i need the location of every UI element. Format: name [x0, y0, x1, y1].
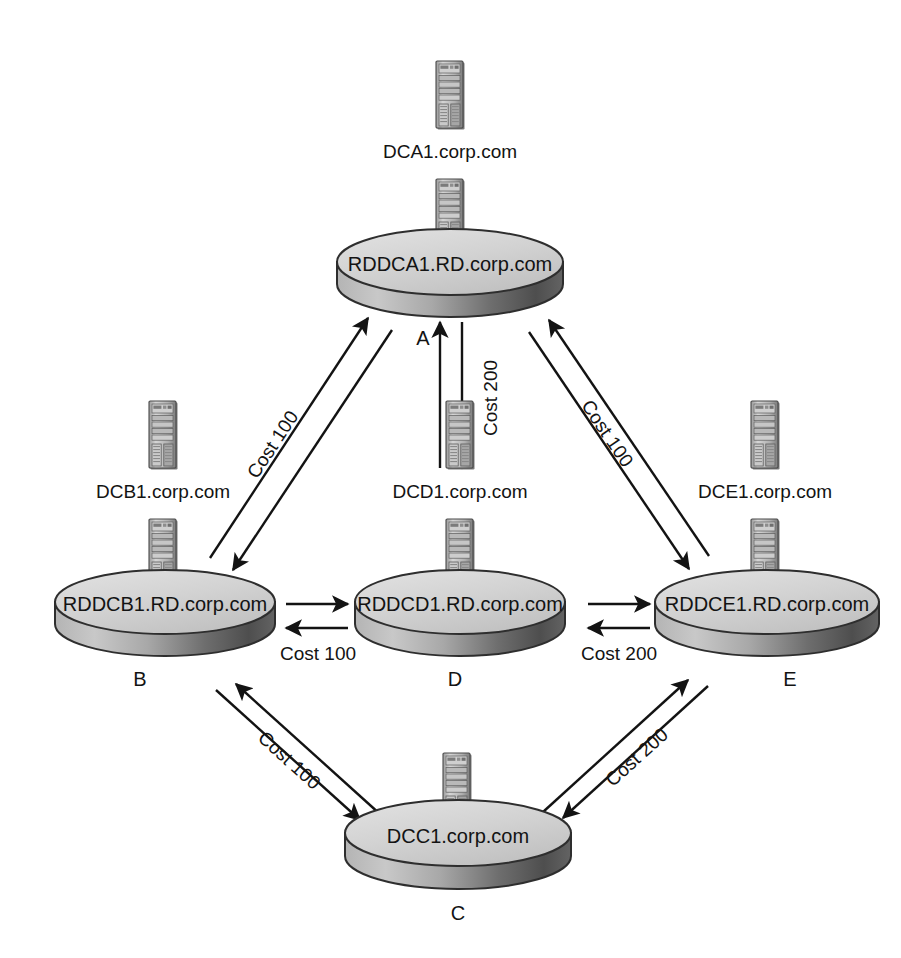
link-b-c-cost: Cost 100	[254, 727, 325, 793]
site-a-cylinder-label: RDDCA1.RD.corp.com	[348, 253, 552, 275]
server-tower-icon	[446, 401, 475, 470]
site-b-server-label: DCB1.corp.com	[96, 481, 230, 502]
site-a-letter: A	[416, 327, 430, 349]
link-c-e[interactable]: Cost 200	[543, 680, 708, 818]
link-a-b-cost: Cost 100	[243, 407, 302, 482]
site-c-cylinder-label: DCC1.corp.com	[387, 825, 529, 847]
site-node-d[interactable]: DCD1.corp.com RDDCD1.RD.corp.com D	[355, 401, 565, 690]
link-a-d-cost: Cost 200	[480, 360, 501, 436]
link-d-e[interactable]: Cost 200	[581, 604, 657, 664]
server-tower-icon	[149, 401, 178, 470]
link-d-e-cost: Cost 200	[581, 643, 657, 664]
site-e-server-label: DCE1.corp.com	[698, 481, 832, 502]
server-tower-icon	[436, 61, 465, 130]
link-a-b[interactable]: Cost 100	[210, 318, 392, 570]
site-topology-diagram: Cost 100 Cost 200 Cost 100 Cost 100 Cost…	[0, 0, 901, 958]
link-b-d[interactable]: Cost 100	[280, 604, 356, 664]
server-tower-icon	[751, 401, 780, 470]
site-e-cylinder-label: RDDCE1.RD.corp.com	[665, 593, 869, 615]
site-e-letter: E	[783, 668, 796, 690]
site-a-server-label: DCA1.corp.com	[383, 141, 517, 162]
site-node-b[interactable]: DCB1.corp.com RDDCB1.RD.corp.com B	[55, 401, 275, 690]
topology-canvas: Cost 100 Cost 200 Cost 100 Cost 100 Cost…	[0, 0, 901, 958]
site-c-letter: C	[451, 902, 465, 924]
site-node-e[interactable]: DCE1.corp.com RDDCE1.RD.corp.com E	[655, 401, 879, 690]
site-node-a[interactable]: DCA1.corp.com RDDCA1.RD.corp.com A	[337, 61, 563, 349]
site-b-letter: B	[133, 668, 146, 690]
link-b-c[interactable]: Cost 100	[216, 684, 381, 820]
site-b-cylinder-label: RDDCB1.RD.corp.com	[63, 593, 267, 615]
link-c-e-cost: Cost 200	[601, 724, 672, 790]
site-d-server-label: DCD1.corp.com	[392, 481, 527, 502]
site-d-cylinder-label: RDDCD1.RD.corp.com	[357, 593, 563, 615]
site-d-letter: D	[448, 668, 462, 690]
site-node-c[interactable]: DCC1.corp.com C	[345, 753, 571, 924]
link-b-d-cost: Cost 100	[280, 643, 356, 664]
link-a-e[interactable]: Cost 100	[529, 320, 709, 569]
